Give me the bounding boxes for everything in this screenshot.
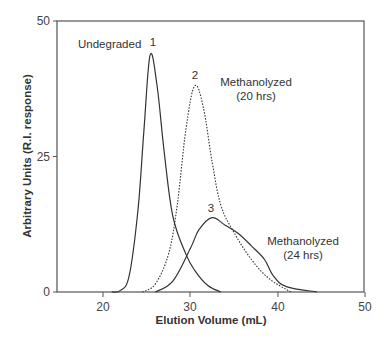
label-methanolyzed-20-line1: Methanolyzed [220,76,292,88]
label-undegraded: Undegraded [78,38,141,50]
series-line-2 [142,85,290,292]
label-methanolyzed-20-line2: (20 hrs) [236,90,276,102]
label-methanolyzed-24-line1: Methanolyzed [267,235,339,247]
x-axis-title: Elution Volume (mL) [156,314,267,326]
x-tick-40: 40 [271,300,285,314]
series-line-1 [112,53,221,292]
x-tick-20: 20 [96,300,110,314]
label-methanolyzed-24-line2: (24 hrs) [283,249,323,261]
y-tick-50: 50 [37,14,51,28]
chart: 50 25 0 Arbitrary Units (R.I. response) … [0,0,387,339]
peak-label-3: 3 [208,202,214,214]
y-tick-0: 0 [43,285,50,299]
y-axis: 50 25 0 Arbitrary Units (R.I. response) [21,14,57,299]
y-axis-title: Arbitrary Units (R.I. response) [21,74,33,238]
peak-label-2: 2 [192,69,198,81]
x-tick-50: 50 [358,300,372,314]
y-tick-25: 25 [37,150,51,164]
x-axis: 20 30 40 50 Elution Volume (mL) [96,292,372,326]
peak-label-1: 1 [150,36,156,48]
x-tick-30: 30 [183,300,197,314]
